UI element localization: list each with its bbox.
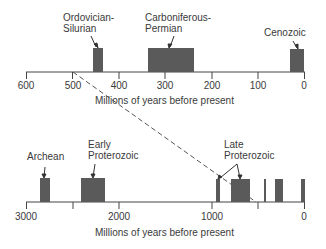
bar-carboniferous-permian-small [275, 179, 283, 202]
bar-late-proterozoic-1 [216, 179, 220, 202]
bar-archean [40, 178, 50, 202]
tick-label: 3000 [15, 211, 37, 222]
bottom-axis-title: Millions of years before present [95, 227, 234, 238]
label-line: Proterozoic [224, 150, 275, 161]
tick-label: 300 [157, 80, 174, 91]
label-early-proterozoic: Early Proterozoic [88, 139, 139, 161]
bar-ordovician-silurian [93, 48, 103, 72]
tick-label: 600 [18, 80, 35, 91]
label-line: Ordovician- [63, 12, 114, 23]
label-carboniferous-permian: Carboniferous- Permian [145, 12, 211, 34]
bar-cenozoic-small [301, 179, 305, 202]
label-archean: Archean [27, 151, 64, 162]
tick-label: 400 [111, 80, 128, 91]
label-late-proterozoic: Late Proterozoic [224, 139, 275, 161]
bar-cenozoic [290, 49, 304, 72]
tick-label: 100 [250, 80, 267, 91]
label-ordovician-silurian: Ordovician- Silurian [63, 12, 114, 34]
label-cenozoic: Cenozoic [264, 27, 306, 38]
tick-label: 2000 [108, 211, 130, 222]
bottom-axis-ticks [27, 202, 305, 209]
top-axis-ticks [27, 72, 305, 79]
bar-early-proterozoic [81, 178, 105, 202]
bottom-arrows [42, 164, 242, 179]
bar-late-proterozoic-2 [231, 179, 250, 202]
bottom-bars [40, 178, 305, 202]
bar-carboniferous-permian [148, 48, 194, 72]
tick-label: 200 [204, 80, 221, 91]
label-line: Permian [145, 23, 211, 34]
label-line: Silurian [63, 23, 114, 34]
top-bars [93, 48, 304, 72]
top-axis-title: Millions of years before present [95, 95, 234, 106]
tick-label: 500 [65, 80, 82, 91]
label-line: Carboniferous- [145, 12, 211, 23]
tick-label: 1000 [201, 211, 223, 222]
bar-ordovician-silurian-small [264, 179, 266, 202]
tick-label: 0 [301, 211, 307, 222]
tick-label: 0 [301, 80, 307, 91]
label-line: Early [88, 139, 139, 150]
label-line: Proterozoic [88, 150, 139, 161]
label-line: Late [224, 139, 275, 150]
